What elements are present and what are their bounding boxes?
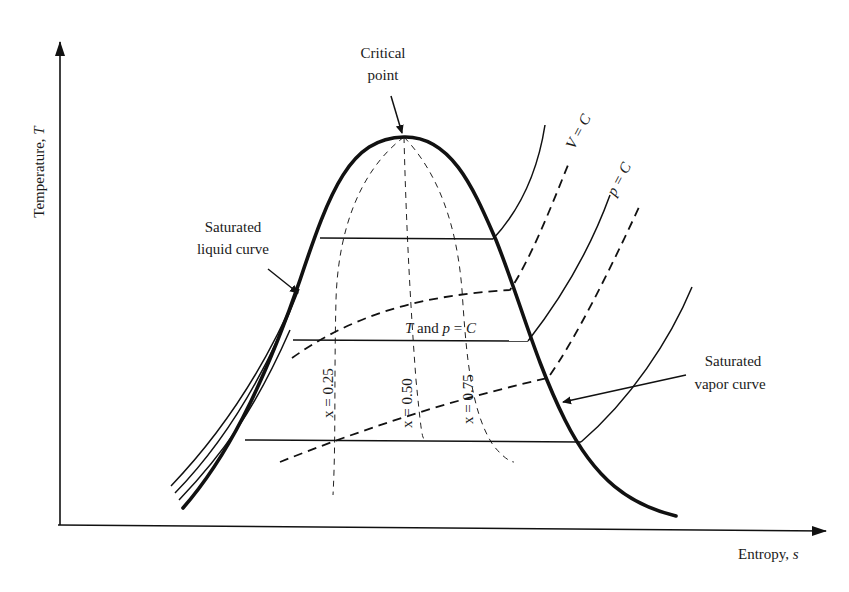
superheated-isobars [493, 125, 692, 442]
quality-label-025: x = 0.25 [320, 368, 336, 418]
isotherm-middle [293, 340, 528, 341]
isotherm-top [320, 238, 493, 239]
saturated-vapor-annotation: Saturated vapor curve [563, 353, 766, 402]
saturated-liquid-label-line2: liquid curve [197, 241, 269, 257]
saturated-liquid-arrow [268, 269, 298, 293]
saturated-vapor-label-line2: vapor curve [694, 376, 766, 392]
saturated-liquid-label-line1: Saturated [205, 219, 262, 235]
critical-point-label-line1: Critical [361, 45, 406, 61]
critical-point-label-line2: point [368, 67, 400, 83]
ts-diagram: Temperature, T Entropy, s V = C p = C T … [0, 0, 849, 592]
critical-point-annotation: Critical point [361, 45, 406, 133]
quality-label-075: x = 0.75 [460, 374, 476, 424]
p-const-label: p = C [603, 159, 635, 199]
temperature-axis-label: Temperature, T [31, 125, 47, 218]
saturated-liquid-annotation: Saturated liquid curve [197, 219, 298, 293]
quality-label-050: x = 0.50 [399, 378, 415, 428]
entropy-axis [58, 525, 826, 531]
saturated-vapor-label-line1: Saturated [705, 353, 762, 369]
axes [58, 42, 826, 531]
isotherm-bottom [245, 440, 581, 442]
compressed-liquid-lines [171, 289, 299, 500]
critical-point-arrow [391, 96, 402, 133]
v-const-label: V = C [563, 111, 595, 152]
t-and-p-const-label: T and p = C [405, 320, 477, 336]
quality-line-075 [404, 137, 514, 462]
entropy-axis-label: Entropy, s [738, 546, 799, 562]
